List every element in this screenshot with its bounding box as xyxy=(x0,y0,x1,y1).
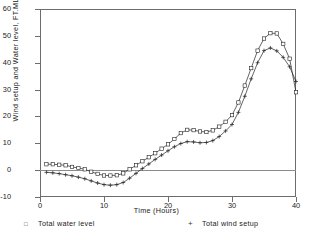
y-axis-tick-label: 10 xyxy=(0,138,11,147)
x-axis-tick-label: 40 xyxy=(276,201,313,210)
chart-legend: □Total water level +Total wind setup xyxy=(0,219,313,231)
legend-item-total-wind-setup: +Total wind setup xyxy=(188,219,258,228)
y-axis-tick-label: 60 xyxy=(0,4,11,13)
y-axis-tick-label: 50 xyxy=(0,31,11,40)
x-axis-tick-label: 0 xyxy=(20,201,60,210)
series-total-water-level xyxy=(45,31,298,177)
legend-label-total-water-level: Total water level xyxy=(38,219,95,228)
data-point-marker xyxy=(256,61,260,65)
series-line xyxy=(46,48,296,185)
data-point-marker xyxy=(186,128,189,131)
data-point-marker xyxy=(198,130,201,133)
data-point-marker xyxy=(172,145,176,149)
data-point-marker xyxy=(250,66,253,69)
y-axis-tick xyxy=(35,36,40,37)
data-point-marker xyxy=(45,163,48,166)
data-point-marker xyxy=(236,110,240,114)
data-point-marker xyxy=(96,172,99,175)
data-point-marker xyxy=(275,32,278,35)
data-point-marker xyxy=(243,94,247,98)
x-axis-tick-label: 10 xyxy=(84,201,124,210)
data-point-marker xyxy=(51,163,54,166)
data-point-marker xyxy=(115,183,119,187)
y-axis-tick xyxy=(35,170,40,171)
data-point-marker xyxy=(89,179,93,183)
data-point-marker xyxy=(77,166,80,169)
data-point-marker xyxy=(179,142,183,146)
data-point-marker xyxy=(204,140,208,144)
y-axis-tick xyxy=(35,143,40,144)
data-point-marker xyxy=(288,57,291,60)
data-point-marker xyxy=(282,42,285,45)
data-point-marker xyxy=(211,129,214,132)
data-point-marker xyxy=(64,164,67,167)
data-point-marker xyxy=(198,141,202,145)
data-point-marker xyxy=(76,175,80,179)
y-axis-tick xyxy=(35,9,40,10)
data-point-marker xyxy=(64,173,68,177)
data-point-marker xyxy=(173,137,176,140)
data-point-marker xyxy=(269,31,272,34)
data-point-marker xyxy=(249,77,253,81)
data-point-marker xyxy=(134,164,137,167)
data-point-marker xyxy=(51,171,55,175)
series-total-wind-setup xyxy=(44,46,298,187)
y-axis-tick-label: -10 xyxy=(0,192,11,201)
data-point-marker xyxy=(262,49,266,53)
x-axis-tick-label: 20 xyxy=(148,201,188,210)
data-point-marker xyxy=(102,174,105,177)
data-point-marker xyxy=(122,172,125,175)
data-point-marker xyxy=(192,128,195,131)
data-point-marker xyxy=(192,140,196,144)
data-point-marker xyxy=(121,181,125,185)
series-layer xyxy=(40,9,296,197)
square-marker-icon: □ xyxy=(24,221,38,227)
data-point-marker xyxy=(185,140,189,144)
data-point-marker xyxy=(211,139,215,143)
data-point-marker xyxy=(294,80,298,84)
data-point-marker xyxy=(70,174,74,178)
data-point-marker xyxy=(108,183,112,187)
series-line xyxy=(46,33,296,175)
chart-figure: Wind setup and Water level, FT.MLW Time … xyxy=(0,0,313,236)
plus-marker-icon: + xyxy=(188,219,202,228)
data-point-marker xyxy=(102,183,106,187)
legend-item-total-water-level: □Total water level xyxy=(24,219,95,228)
data-point-marker xyxy=(262,37,265,40)
data-point-marker xyxy=(205,130,208,133)
data-point-marker xyxy=(96,181,100,185)
data-point-marker xyxy=(224,120,227,123)
y-axis-label: Wind setup and Water level, FT.MLW xyxy=(11,0,20,132)
data-point-marker xyxy=(147,156,150,159)
data-point-marker xyxy=(70,165,73,168)
data-point-marker xyxy=(141,160,144,163)
data-point-marker xyxy=(243,84,246,87)
data-point-marker xyxy=(256,49,259,52)
data-point-marker xyxy=(83,168,86,171)
data-point-marker xyxy=(57,172,61,176)
y-axis-tick-label: 20 xyxy=(0,111,11,120)
data-point-marker xyxy=(237,101,240,104)
data-point-marker xyxy=(109,174,112,177)
data-point-marker xyxy=(179,131,182,134)
data-point-marker xyxy=(90,170,93,173)
x-axis-tick-label: 30 xyxy=(212,201,252,210)
data-point-marker xyxy=(268,46,272,50)
data-point-marker xyxy=(218,125,221,128)
y-axis-tick-label: 40 xyxy=(0,58,11,67)
data-point-marker xyxy=(83,177,87,181)
y-axis-tick-label: 0 xyxy=(0,165,11,174)
data-point-marker xyxy=(166,149,170,153)
data-point-marker xyxy=(160,147,163,150)
data-point-marker xyxy=(44,170,48,174)
data-point-marker xyxy=(294,91,297,94)
data-point-marker xyxy=(128,168,131,171)
data-point-marker xyxy=(154,152,157,155)
data-point-marker xyxy=(58,163,61,166)
y-axis-tick xyxy=(35,63,40,64)
legend-label-total-wind-setup: Total wind setup xyxy=(202,219,258,228)
data-point-marker xyxy=(166,143,169,146)
plot-area xyxy=(40,9,296,197)
data-point-marker xyxy=(115,174,118,177)
y-axis-tick xyxy=(35,116,40,117)
